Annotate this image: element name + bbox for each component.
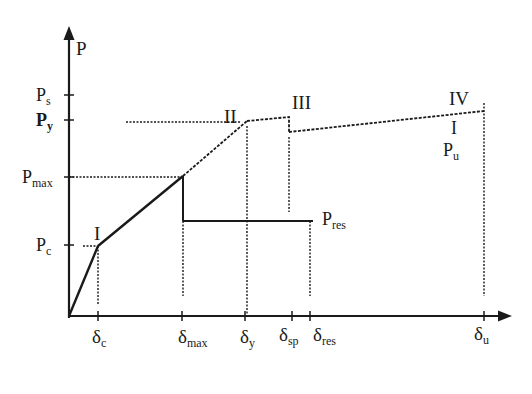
label-delta-res: δres — [313, 324, 336, 348]
y-axis-arrow-icon — [64, 26, 75, 40]
label-delta-max: δmax — [178, 326, 208, 350]
stage-iv-marker: I — [451, 118, 457, 138]
stage-I-segment — [69, 246, 98, 316]
axes — [64, 26, 513, 322]
curve-solid — [69, 176, 313, 316]
label-p-u: Pu — [443, 140, 459, 163]
load-deflection-diagram: P Ps Py Pmax Pc δc δmax δy δsp δres δu I… — [0, 0, 532, 394]
x-axis-arrow-icon — [498, 311, 512, 322]
guide-lines — [69, 103, 484, 318]
stage-label-iii: III — [292, 92, 311, 113]
stage-II-segment — [183, 121, 247, 176]
label-delta-c: δc — [92, 326, 106, 350]
label-p-max: Pmax — [22, 167, 53, 190]
stage-III-segment — [247, 117, 289, 132]
label-delta-u: δu — [474, 323, 489, 347]
label-p-y: Py — [36, 110, 53, 133]
stage-label-i: I — [94, 223, 100, 244]
label-p-res: Pres — [322, 209, 346, 232]
y-axis-label: P — [76, 38, 87, 59]
stage-I-II-segment — [98, 176, 183, 246]
label-p-s: Ps — [36, 85, 51, 108]
stage-label-iv: IV — [449, 88, 469, 109]
label-delta-sp: δsp — [279, 324, 299, 348]
label-delta-y: δy — [240, 326, 255, 350]
stage-label-ii: II — [224, 106, 237, 127]
label-p-c: Pc — [36, 235, 51, 258]
